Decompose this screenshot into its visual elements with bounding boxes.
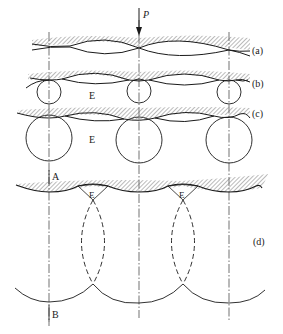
dashed-arc xyxy=(172,200,184,284)
dashed-arc xyxy=(93,200,105,284)
stage-d xyxy=(15,170,268,322)
stage-label-a: (a) xyxy=(252,45,263,57)
centerlines xyxy=(49,20,229,326)
dashed-arc xyxy=(82,200,94,284)
stage-label-b: (b) xyxy=(252,78,264,90)
contact-arc xyxy=(183,284,265,303)
stage-label-c: (c) xyxy=(252,108,263,120)
stage-b xyxy=(26,70,250,104)
force-label: P xyxy=(142,9,149,20)
axis-label-b: B xyxy=(52,309,59,320)
gap-label-d-right: E xyxy=(179,190,185,200)
contact-arc xyxy=(15,284,93,302)
gap-label-b: E xyxy=(89,90,95,101)
gap-label-d-left: E xyxy=(89,190,95,200)
stage-c xyxy=(17,107,252,163)
arrow-head-icon xyxy=(136,27,142,36)
dashed-arc xyxy=(183,200,195,284)
contact-deformation-diagram: P (a) E (b) E (c) xyxy=(0,0,283,334)
axis-label-a: A xyxy=(52,171,60,182)
stage-a xyxy=(32,36,250,57)
hatched-body xyxy=(32,36,250,51)
contact-arc xyxy=(93,284,183,303)
gap-label-c: E xyxy=(89,134,95,145)
force-arrow xyxy=(136,8,142,36)
stage-label-d: (d) xyxy=(253,236,265,248)
